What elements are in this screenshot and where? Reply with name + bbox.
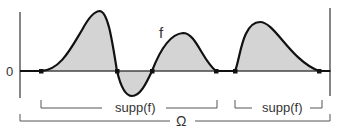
function-label: f bbox=[159, 24, 164, 41]
domain-label: Ω bbox=[176, 113, 186, 129]
support-label-2: supp(f) bbox=[262, 100, 302, 115]
support-diagram: 0 f supp(f) supp(f) Ω bbox=[0, 0, 341, 132]
domain-bracket bbox=[20, 114, 330, 121]
shaded-area bbox=[41, 11, 319, 96]
zero-label: 0 bbox=[6, 64, 13, 79]
support-label-1: supp(f) bbox=[115, 100, 155, 115]
